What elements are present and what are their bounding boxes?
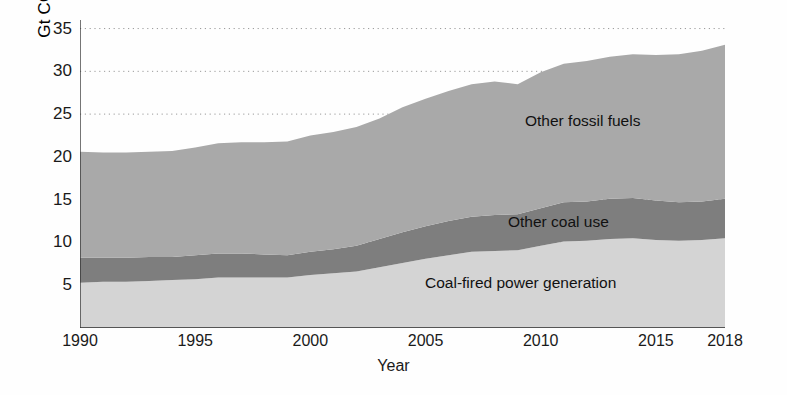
y-tick-label: 30 <box>28 61 72 81</box>
x-tick-label: 2005 <box>408 332 444 350</box>
x-tick-label: 2010 <box>523 332 559 350</box>
y-tick-label: 25 <box>28 104 72 124</box>
annotation-coal-fired-power-generation: Coal-fired power generation <box>425 274 616 292</box>
x-tick-label: 1990 <box>62 332 98 350</box>
x-tick-label: 2000 <box>293 332 329 350</box>
x-tick-label: 2015 <box>638 332 674 350</box>
y-tick-label: 10 <box>28 232 72 252</box>
x-axis-label: Year <box>0 357 787 375</box>
x-tick-label: 1995 <box>177 332 213 350</box>
y-tick-label: 20 <box>28 147 72 167</box>
chart-figure: Gt CO2 5101520253035 1990199520002005201… <box>0 0 787 395</box>
stacked-area-svg <box>80 20 725 328</box>
annotation-other-fossil-fuels: Other fossil fuels <box>525 112 640 130</box>
annotation-other-coal-use: Other coal use <box>508 213 609 231</box>
y-tick-label: 35 <box>28 19 72 39</box>
y-tick-label: 15 <box>28 190 72 210</box>
x-tick-label: 2018 <box>707 332 743 350</box>
plot-area <box>80 20 725 328</box>
y-tick-label: 5 <box>28 275 72 295</box>
